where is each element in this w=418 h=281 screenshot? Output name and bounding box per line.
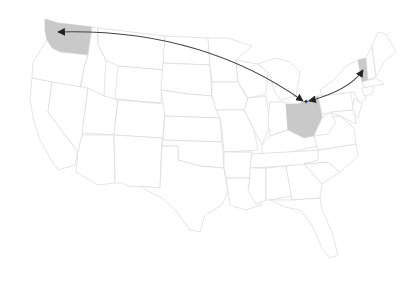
state-kansas[interactable] [163,116,222,142]
state-arkansas[interactable] [224,152,252,178]
state-wyoming[interactable] [115,66,163,103]
state-new-mexico[interactable] [114,135,162,188]
state-connecticut[interactable] [362,86,374,96]
state-maine[interactable] [372,32,396,76]
state-florida[interactable] [270,198,338,258]
state-colorado[interactable] [114,100,165,138]
state-montana[interactable] [98,28,165,70]
state-utah[interactable] [82,88,118,135]
us-map: ✦ [0,0,418,281]
star-icon: ✦ [303,98,309,105]
state-arizona[interactable] [76,135,115,185]
